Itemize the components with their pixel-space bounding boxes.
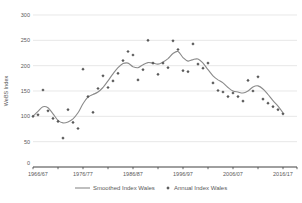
legend-smoothed-label: Smoothed Index Wales: [93, 185, 155, 191]
annual-index-point: [246, 79, 249, 82]
annual-index-point: [36, 113, 39, 116]
annual-index-point: [196, 63, 199, 66]
y-tick-label: 150: [21, 88, 30, 94]
x-tick-label: 1996/97: [173, 171, 193, 177]
annual-index-point: [251, 89, 254, 92]
annual-index-point: [156, 73, 159, 76]
annual-index-point: [131, 53, 134, 56]
y-tick-label: 100: [21, 113, 30, 119]
smoothed-index-line: [33, 51, 283, 123]
annual-index-point: [96, 87, 99, 90]
annual-index-point: [146, 39, 149, 42]
x-tick-label: 1966/67: [28, 171, 48, 177]
annual-index-point: [51, 117, 54, 120]
annual-index-point: [101, 74, 104, 77]
plot-area: 0501001502002503001966/671976/771986/871…: [21, 12, 297, 177]
annual-index-point: [136, 78, 139, 81]
annual-index-point: [166, 66, 169, 69]
annual-index-point: [271, 105, 274, 108]
y-tick-label: 0: [27, 160, 30, 166]
annual-index-point: [241, 100, 244, 103]
x-tick-label: 1976/77: [73, 171, 93, 177]
legend-annual-swatch: [166, 186, 169, 189]
legend: Smoothed Index Wales Annual Index Wales: [75, 185, 227, 191]
annual-index-point: [201, 67, 204, 70]
annual-index-point: [81, 68, 84, 71]
annual-index-point: [261, 98, 264, 101]
annual-index-point: [186, 70, 189, 73]
y-tick-label: 50: [24, 139, 30, 145]
annual-index-point: [281, 112, 284, 115]
annual-index-point: [141, 68, 144, 71]
annual-index-point: [181, 69, 184, 72]
annual-index-point: [236, 95, 239, 98]
annual-index-point: [126, 50, 129, 53]
annual-index-point: [46, 109, 49, 112]
annual-index-point: [111, 79, 114, 82]
y-tick-label: 250: [21, 37, 30, 43]
annual-index-point: [206, 62, 209, 65]
y-tick-label: 200: [21, 63, 30, 69]
annual-index-point: [216, 89, 219, 92]
chart-canvas: 0501001502002503001966/671976/771986/871…: [0, 0, 302, 203]
annual-index-point: [56, 120, 59, 123]
legend-annual-label: Annual Index Wales: [174, 185, 227, 191]
annual-index-point: [226, 95, 229, 98]
annual-index-point: [91, 111, 94, 114]
annual-index-point: [191, 42, 194, 45]
annual-index-point: [106, 86, 109, 89]
annual-index-point: [121, 59, 124, 62]
annual-index-point: [176, 48, 179, 51]
annual-index-point: [211, 81, 214, 84]
annual-index-point: [116, 72, 119, 75]
annual-index-point: [256, 75, 259, 78]
annual-index-point: [276, 108, 279, 111]
annual-index-point: [171, 39, 174, 42]
annual-index-point: [61, 137, 64, 140]
annual-index-point: [151, 62, 154, 65]
annual-index-point: [76, 127, 79, 130]
x-tick-label: 1986/87: [123, 171, 143, 177]
annual-index-point: [266, 102, 269, 105]
annual-index-point: [66, 108, 69, 111]
y-axis-title: WeBS Index: [3, 76, 9, 107]
x-tick-label: 2016/17: [273, 171, 293, 177]
annual-index-point: [71, 121, 74, 124]
y-tick-label: 300: [21, 12, 30, 18]
x-tick-label: 2006/07: [223, 171, 243, 177]
webs-index-chart: 0501001502002503001966/671976/771986/871…: [0, 0, 302, 203]
